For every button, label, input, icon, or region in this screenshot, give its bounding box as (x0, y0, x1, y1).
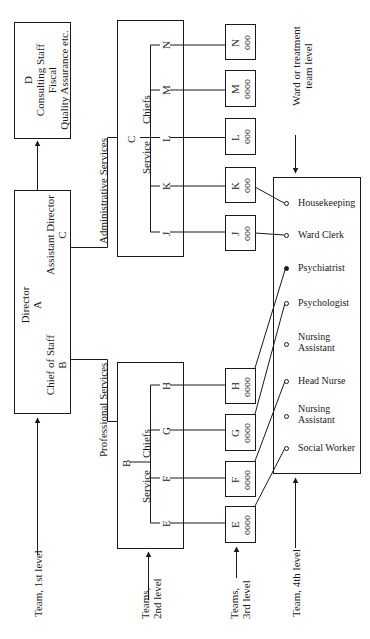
prof-root-letter: B (120, 460, 132, 467)
director-label: Director A (19, 275, 43, 335)
team-4th-level-label: Team, 4th level (290, 549, 302, 617)
member-dot-ward-clerk (284, 233, 289, 238)
member-nursing-assistant-2: Nursing Assistant (298, 403, 335, 425)
assistant-letter: C (56, 180, 68, 290)
team-g-letter: G (229, 429, 241, 437)
prof-chief-h: H (160, 382, 172, 390)
member-social-worker: Social Worker (298, 442, 355, 453)
member-dot-nursing-assistant-1 (284, 342, 289, 347)
team-l-letter: L (229, 134, 241, 141)
team-e-letter: E (229, 521, 241, 528)
prof-services-label: Professional Services (97, 363, 109, 457)
team-m-members: oooo (241, 79, 252, 99)
staff-box-text: D Consulting Staff Fiscal Quality Assura… (22, 24, 70, 136)
admin-service-label: Service (140, 141, 152, 174)
member-dot-head-nurse (284, 379, 289, 384)
team-j-members: ooo (241, 226, 252, 241)
assistant-director-label: Assistant Director C (44, 180, 68, 290)
team-n-letter: N (229, 39, 241, 47)
admin-services-label: Administrative Services (97, 138, 109, 244)
member-dot-psychiatrist (284, 266, 289, 271)
member-dot-psychologist (284, 301, 289, 306)
team-k-letter: K (229, 182, 241, 190)
member-dot-housekeeping (284, 201, 289, 206)
member-ward-clerk: Ward Clerk (298, 229, 344, 240)
chief-letter: B (56, 325, 68, 405)
team-n-members: ooo (241, 35, 252, 50)
staff-qa: Quality Assurance etc. (58, 24, 70, 136)
team-f-members: oooo (241, 470, 252, 490)
team-h-letter: H (229, 382, 241, 390)
ward-team-box (274, 178, 361, 474)
admin-root-letter: C (125, 136, 137, 143)
admin-chief-m: M (160, 85, 172, 95)
team-k-members: ooo (241, 178, 252, 193)
team-f-letter: F (229, 477, 241, 483)
staff-consulting: Consulting Staff (34, 24, 46, 136)
member-dot-social-worker (284, 446, 289, 451)
admin-chiefs-label: Chiefs (140, 95, 152, 124)
teams-3rd-level-label: Teams, 3rd level (228, 580, 252, 619)
member-head-nurse: Head Nurse (298, 375, 345, 386)
team-e-members: oooo (241, 515, 252, 535)
member-psychiatrist: Psychiatrist (298, 262, 345, 273)
member-nursing-assistant-1: Nursing Assistant (298, 331, 335, 353)
ward-level-label: Ward or treatment team level (290, 16, 314, 116)
member-dot-nursing-assistant-2 (284, 414, 289, 419)
member-housekeeping: Housekeeping (298, 197, 355, 208)
teams-2nd-level-label: Teams, 2nd level (139, 578, 163, 619)
prof-chief-g: G (160, 427, 172, 435)
prof-chief-e: E (160, 520, 172, 527)
staff-fiscal: Fiscal (46, 24, 58, 136)
admin-chief-n: N (160, 41, 172, 49)
prof-chief-f: F (160, 476, 172, 482)
team-h-members: oooo (241, 377, 252, 397)
prof-service-label: Service (140, 470, 152, 503)
admin-chief-j: J (160, 232, 172, 236)
staff-letter: D (22, 24, 34, 136)
member-psychologist: Psychologist (298, 297, 349, 308)
team-j-letter: J (229, 232, 241, 236)
team-1st-level-label: Team, 1st level (32, 550, 44, 617)
director-letter: A (31, 275, 43, 335)
team-g-members: oooo (241, 423, 252, 443)
admin-chief-k: K (160, 182, 172, 190)
team-l-members: ooo (241, 129, 252, 144)
admin-chief-l: L (160, 135, 172, 142)
prof-chiefs-label: Chiefs (140, 429, 152, 458)
team-m-letter: M (229, 84, 241, 94)
chief-of-staff-label: Chief of Staff B (44, 325, 68, 405)
